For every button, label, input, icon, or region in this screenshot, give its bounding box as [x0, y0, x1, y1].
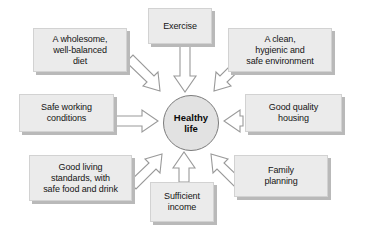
node-diet[interactable]: A wholesome, well-balanced diet: [33, 28, 127, 72]
node-living-standards-label: Good living standards, with safe food an…: [41, 162, 120, 195]
arrow-income-to-center: [173, 152, 195, 182]
node-income[interactable]: Sufficient income: [150, 182, 214, 222]
node-safe-working[interactable]: Safe working conditions: [19, 94, 114, 132]
node-environment[interactable]: A clean, hygienic and safe environment: [228, 28, 332, 72]
node-family-planning-label: Family planning: [262, 165, 299, 187]
center-node-healthy-life[interactable]: Healthy life: [163, 95, 219, 151]
node-safe-working-label: Safe working conditions: [39, 102, 94, 124]
node-income-label: Sufficient income: [162, 191, 202, 213]
node-exercise-label: Exercise: [161, 21, 199, 32]
arrow-safe-working-to-center: [116, 110, 158, 132]
arrow-exercise-to-center: [174, 44, 196, 92]
node-exercise[interactable]: Exercise: [148, 8, 212, 44]
node-family-planning[interactable]: Family planning: [234, 155, 328, 197]
node-diet-label: A wholesome, well-balanced diet: [51, 34, 110, 67]
center-node-label: Healthy life: [172, 112, 210, 134]
arrow-diet-to-center: [126, 55, 160, 91]
healthy-life-diagram: Exercise A wholesome, well-balanced diet…: [0, 0, 374, 235]
node-living-standards[interactable]: Good living standards, with safe food an…: [29, 155, 132, 201]
node-housing-label: Good quality housing: [267, 102, 320, 124]
node-environment-label: A clean, hygienic and safe environment: [244, 34, 315, 67]
arrow-housing-to-center: [224, 110, 243, 132]
node-housing[interactable]: Good quality housing: [245, 94, 342, 132]
